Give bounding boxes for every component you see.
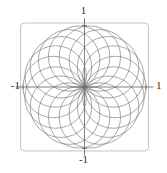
plot-canvas xyxy=(0,0,167,173)
plot-figure: 1 -1 -1 1 xyxy=(0,0,167,173)
axis-label-right: 1 xyxy=(156,80,167,91)
axis-label-top: 1 xyxy=(0,5,167,16)
axis-label-bottom: -1 xyxy=(0,154,167,165)
axis-label-left: -1 xyxy=(2,80,20,91)
